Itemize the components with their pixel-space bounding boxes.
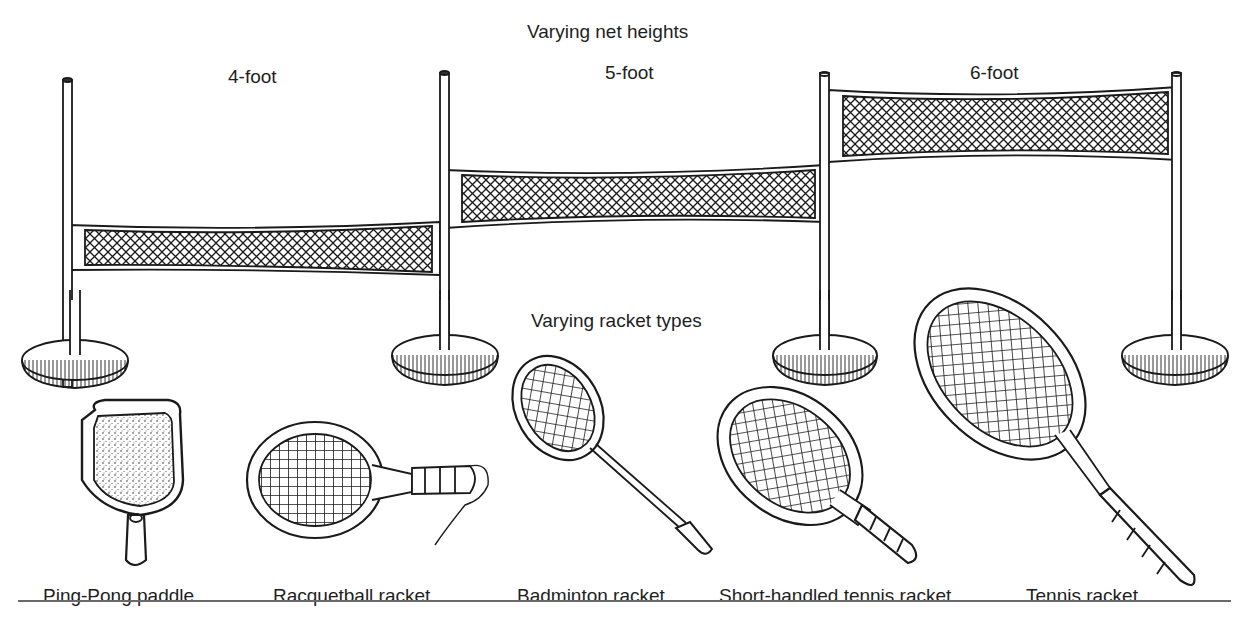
label-badminton-racket: Badminton racket — [517, 585, 665, 607]
label-short-handled-tennis-racket: Short-handled tennis racket — [719, 585, 951, 607]
tennis-racket-drawing — [881, 255, 1194, 585]
short-handled-tennis-racket-drawing — [690, 359, 916, 563]
net-label-5-foot: 5-foot — [605, 62, 654, 84]
label-racquetball-racket: Racquetball racket — [273, 585, 430, 607]
label-tennis-racket: Tennis racket — [1026, 585, 1138, 607]
ping-pong-paddle-drawing — [82, 400, 183, 565]
net-4-foot — [68, 222, 440, 275]
label-ping-pong-paddle: Ping-Pong paddle — [43, 585, 194, 607]
net-5-foot — [445, 165, 825, 228]
net-label-4-foot: 4-foot — [228, 66, 277, 88]
rackets-title: Varying racket types — [531, 310, 702, 332]
nets-title: Varying net heights — [527, 21, 688, 43]
net-6-foot — [828, 87, 1178, 162]
racquetball-racket-drawing — [247, 422, 488, 545]
bottom-rule — [18, 600, 1231, 602]
badminton-racket-drawing — [494, 339, 712, 553]
net-label-6-foot: 6-foot — [970, 62, 1019, 84]
